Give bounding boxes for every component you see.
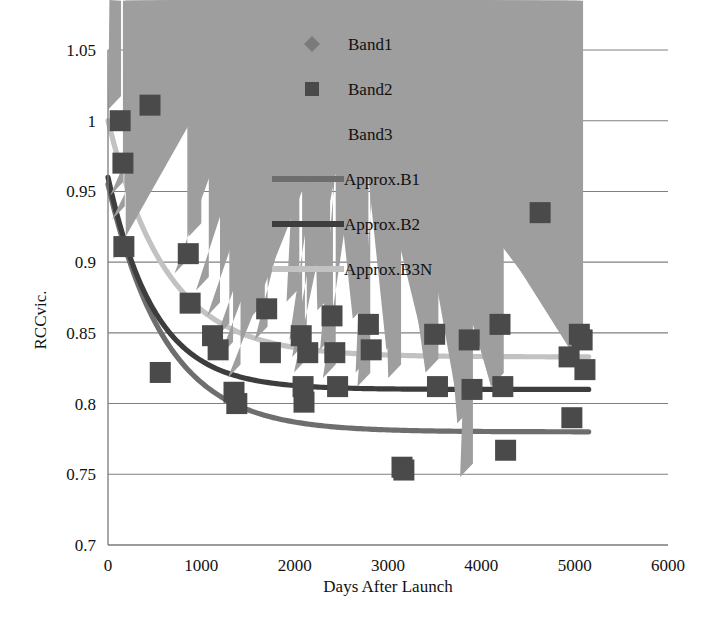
y-axis-title: RCCvic. — [31, 290, 50, 349]
data-point-square — [322, 305, 343, 326]
data-point-square — [110, 110, 131, 131]
legend-label: Approx.B3N — [344, 260, 432, 279]
y-tick-label: 1 — [88, 112, 97, 131]
data-point-square — [113, 236, 134, 257]
y-tick-label: 0.75 — [66, 465, 96, 484]
legend-label: Band3 — [348, 125, 392, 144]
x-tick-label: 6000 — [651, 556, 685, 575]
x-tick-labels: 0100020003000400050006000 — [104, 556, 685, 575]
data-point-square — [490, 314, 511, 335]
x-tick-label: 3000 — [371, 556, 405, 575]
x-tick-label: 1000 — [184, 556, 218, 575]
legend-label: Band1 — [348, 35, 392, 54]
data-point-square — [572, 329, 593, 350]
x-axis-title: Days After Launch — [323, 577, 453, 596]
data-point-square — [140, 95, 161, 116]
data-point-square — [530, 202, 551, 223]
data-point-square — [178, 243, 199, 264]
data-point-square — [459, 329, 480, 350]
data-point-square — [492, 376, 513, 397]
y-tick-label: 0.7 — [75, 536, 97, 555]
data-point-square — [297, 342, 318, 363]
x-tick-label: 5000 — [558, 556, 592, 575]
legend-label: Band2 — [348, 80, 392, 99]
y-tick-label: 0.95 — [66, 182, 96, 201]
data-point-square — [361, 339, 382, 360]
data-point-square — [424, 324, 445, 345]
data-point-square — [462, 379, 483, 400]
data-point-square — [260, 342, 281, 363]
data-point-square — [574, 359, 595, 380]
series-band3 — [108, 0, 583, 477]
data-point-square — [294, 392, 315, 413]
legend-marker-square — [305, 82, 319, 96]
y-tick-labels: 0.70.750.80.850.90.9511.05 — [66, 41, 96, 555]
y-tick-label: 0.9 — [75, 253, 96, 272]
data-point-square — [561, 407, 582, 428]
data-point-square — [327, 376, 348, 397]
data-point-triangle — [108, 0, 121, 109]
chart-container: 0.70.750.80.850.90.9511.05 0100020003000… — [0, 0, 714, 619]
data-point-square — [358, 314, 379, 335]
x-tick-label: 2000 — [278, 556, 312, 575]
data-point-square — [226, 393, 247, 414]
x-tick-label: 0 — [104, 556, 113, 575]
y-tick-label: 0.8 — [75, 395, 96, 414]
rccvic-scatter-chart: 0.70.750.80.850.90.9511.05 0100020003000… — [0, 0, 714, 619]
data-point-square — [180, 293, 201, 314]
y-tick-label: 1.05 — [66, 41, 96, 60]
data-point-square — [112, 153, 133, 174]
data-point-square — [256, 298, 277, 319]
data-point-square — [324, 342, 345, 363]
data-point-square — [150, 362, 171, 383]
data-point-square — [495, 440, 516, 461]
legend-label: Approx.B1 — [344, 170, 420, 189]
x-tick-label: 4000 — [464, 556, 498, 575]
y-tick-label: 0.85 — [66, 324, 96, 343]
legend-label: Approx.B2 — [344, 215, 420, 234]
data-point-square — [393, 460, 414, 481]
data-point-square — [208, 339, 229, 360]
data-point-square — [427, 376, 448, 397]
